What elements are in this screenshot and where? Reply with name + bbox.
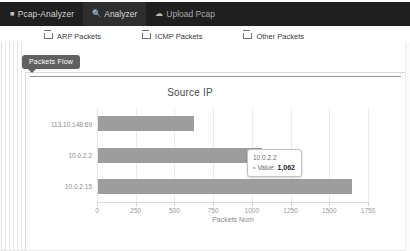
x-tick-label: 500 [169,207,180,214]
packet-filter-row: ARP Packets ICMP Packets Other Packets [0,26,410,42]
y-axis-label: 10.0.2.15 [30,183,92,190]
filter-other-packets[interactable]: Other Packets [243,32,304,42]
filter-arp-label: ARP Packets [57,32,101,42]
x-axis-title: Packets Num [97,216,369,223]
tooltip-value: 1,062 [277,164,295,172]
y-axis-label: 113.10.148.69 [30,120,92,127]
chart-title: Source IP [30,87,350,98]
nav-item-analyzer[interactable]: 🔍 Analyzer [83,2,146,26]
x-tick-label: 0 [95,207,99,214]
cloud-upload-icon: ☁ [155,10,163,18]
app-root: ■ Pcap-Analyzer 🔍 Analyzer ☁ Upload Pcap… [0,0,410,251]
grid-icon: ■ [10,10,15,18]
checkbox-icon[interactable] [243,33,252,39]
brand-pcap-analyzer[interactable]: ■ Pcap-Analyzer [0,2,83,26]
x-tick-label: 1500 [322,207,336,214]
x-axis-line [97,202,369,203]
tooltip-title: 10.0.2.2 [253,154,295,162]
x-tick [174,202,175,206]
x-tick-label: 750 [208,207,219,214]
bar[interactable] [98,116,194,131]
nav-item-upload-label: Upload Pcap [166,9,215,19]
nav-item-upload-pcap[interactable]: ☁ Upload Pcap [146,2,224,26]
x-tick [136,202,137,206]
gridline [368,108,369,202]
checkbox-icon[interactable] [44,33,53,39]
x-tick-label: 1750 [361,207,375,214]
chart-plot-area [97,108,368,202]
bar[interactable] [98,179,352,194]
x-tick [252,202,253,206]
x-tick-label: 250 [130,207,141,214]
packets-flow-label: Packets Flow [29,58,73,65]
x-tick [291,202,292,206]
chart-card-divider [30,76,401,77]
top-navbar: ■ Pcap-Analyzer 🔍 Analyzer ☁ Upload Pcap [0,2,410,26]
x-tick [368,202,369,206]
x-tick [213,202,214,206]
filter-icmp-packets[interactable]: ICMP Packets [142,32,202,42]
search-icon: 🔍 [92,10,101,18]
filter-icmp-label: ICMP Packets [155,32,202,42]
bar[interactable] [98,148,262,163]
x-tick [97,202,98,206]
x-tick-label: 1000 [245,207,259,214]
tooltip-marker-icon: • [253,164,255,172]
chart-hover-tooltip: 10.0.2.2 • Value: 1,062 [247,149,302,177]
filter-other-label: Other Packets [256,32,304,42]
vertical-scrollbar[interactable] [405,26,410,251]
filter-arp-packets[interactable]: ARP Packets [44,32,101,42]
x-tick-label: 1250 [283,207,297,214]
brand-label: Pcap-Analyzer [18,9,75,19]
nav-item-analyzer-label: Analyzer [104,9,137,19]
checkbox-icon[interactable] [142,33,151,39]
tooltip-key: Value: [257,164,275,172]
x-tick [329,202,330,206]
packets-flow-badge[interactable]: Packets Flow [22,55,80,69]
source-ip-bar-chart: Source IP 02505007501000125015001750 113… [30,80,402,240]
y-axis-label: 10.0.2.2 [30,152,92,159]
